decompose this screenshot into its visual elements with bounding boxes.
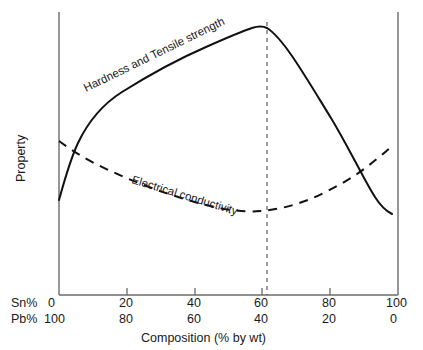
property-composition-chart: Hardness and Tensile strength Electrical…	[0, 0, 423, 350]
x-tick-label-row1-100: 100	[386, 296, 407, 310]
x-tick-label-row1-0: 0	[48, 296, 55, 310]
x-tick-label-row2-0: 0	[390, 312, 397, 326]
x-axis-row1-prefix: Sn%	[11, 296, 37, 310]
x-tick-label-row2-80: 80	[119, 312, 133, 326]
x-tick-label-row1-80: 80	[322, 296, 336, 310]
x-tick-label-row2-40: 40	[254, 312, 268, 326]
x-tick-label-row2-60: 60	[187, 312, 201, 326]
x-tick-label-row1-40: 40	[187, 296, 201, 310]
x-tick-label-row2-100: 100	[44, 312, 65, 326]
x-tick-label-row2-20: 20	[322, 312, 336, 326]
x-axis-row2-prefix: Pb%	[11, 312, 37, 326]
x-tick-label-row1-60: 60	[254, 296, 268, 310]
curve-label-electrical-conductivity: Electrical conductivity	[130, 173, 239, 217]
x-axis-title: Composition (% by wt)	[141, 331, 266, 345]
y-axis-title: Property	[14, 134, 28, 182]
curve-label-hardness-tensile-strength: Hardness and Tensile strength	[82, 15, 227, 94]
x-tick-label-row1-20: 20	[119, 296, 133, 310]
curve-hardness-tensile-strength	[59, 27, 392, 215]
